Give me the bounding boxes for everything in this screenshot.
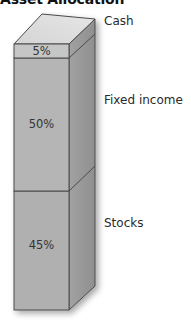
legend-label-cash: Cash [104, 14, 134, 28]
value-label-cash: 5% [14, 44, 69, 58]
legend-label-fixed-income: Fixed income [104, 93, 183, 107]
column-side-face [69, 19, 95, 310]
legend-label-stocks: Stocks [104, 216, 143, 230]
value-label-fixed-income: 50% [14, 117, 69, 131]
value-label-stocks: 45% [14, 238, 69, 252]
